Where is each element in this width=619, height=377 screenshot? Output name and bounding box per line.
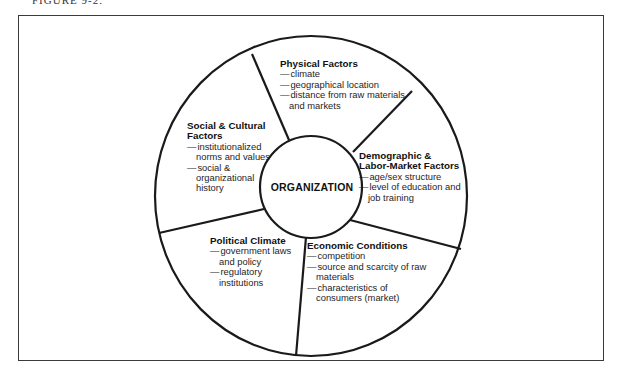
segment-social-cultural-factors: Social & Cultural Factors institutionali…	[187, 121, 271, 194]
segment-item: source and scarcity of raw materials	[307, 262, 435, 283]
segment-item: level of education and job training	[359, 182, 464, 203]
segment-title: Demographic & Labor-Market Factors	[359, 151, 464, 172]
segment-item: regulatory institutions	[210, 267, 300, 288]
segment-demographic-labor-market-factors: Demographic & Labor-Market Factors age/s…	[359, 151, 464, 203]
segment-physical-factors: Physical Factors climate geographical lo…	[280, 59, 405, 111]
segment-economic-conditions: Economic Conditions competition source a…	[307, 241, 435, 303]
segment-item: distance from raw materials and markets	[280, 90, 405, 111]
segment-item: government laws and policy	[210, 246, 300, 267]
segment-item: characteristics of consumers (market)	[307, 283, 435, 304]
divider-political-social	[159, 209, 264, 233]
segment-item: institutionalized norms and values	[187, 142, 271, 163]
segment-item: social & organizational history	[187, 163, 271, 194]
segment-political-climate: Political Climate government laws and po…	[210, 236, 300, 288]
segment-title: Social & Cultural Factors	[187, 121, 271, 142]
center-organization-label: ORGANIZATION	[262, 181, 362, 193]
